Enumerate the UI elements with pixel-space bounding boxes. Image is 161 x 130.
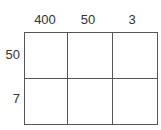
row-header-0: 50: [0, 47, 20, 63]
grid-table: [24, 32, 158, 125]
grid-cell-r0c0[interactable]: [25, 33, 68, 79]
grid-cell-r1c1[interactable]: [68, 79, 113, 125]
table-row: [25, 79, 158, 125]
grid-cell-r1c0[interactable]: [25, 79, 68, 125]
grid-cell-r0c2[interactable]: [113, 33, 158, 79]
row-header-1: 7: [0, 91, 20, 107]
grid-cell-r1c2[interactable]: [113, 79, 158, 125]
column-header-2: 3: [110, 12, 154, 28]
column-header-0: 400: [24, 12, 66, 28]
column-header-1: 50: [66, 12, 110, 28]
table-row: [25, 33, 158, 79]
grid-body: [25, 33, 158, 125]
grid-cell-r0c1[interactable]: [68, 33, 113, 79]
area-model-grid: 400 50 3 50 7: [0, 0, 161, 130]
